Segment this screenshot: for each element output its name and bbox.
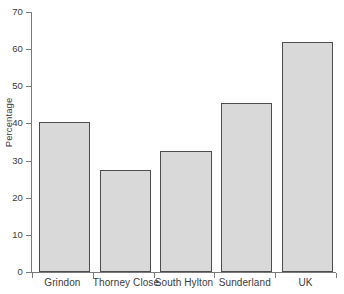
y-tick: 0 bbox=[0, 272, 31, 273]
bar bbox=[100, 170, 151, 272]
y-tick-mark bbox=[26, 49, 31, 50]
x-axis-label: Sunderland bbox=[214, 277, 275, 289]
y-tick: 50 bbox=[0, 86, 31, 87]
x-axis-line bbox=[31, 272, 336, 273]
y-tick-mark bbox=[26, 198, 31, 199]
y-tick: 30 bbox=[0, 161, 31, 162]
y-tick: 70 bbox=[0, 12, 31, 13]
y-tick-label: 10 bbox=[1, 230, 23, 240]
bar-chart: Percentage 010203040506070 GrindonThorne… bbox=[0, 0, 344, 294]
y-tick-label: 0 bbox=[1, 267, 23, 277]
y-tick-label: 40 bbox=[1, 118, 23, 128]
y-tick-label: 50 bbox=[1, 81, 23, 91]
plot-area bbox=[32, 12, 336, 272]
bar bbox=[39, 122, 90, 272]
y-tick: 10 bbox=[0, 235, 31, 236]
x-axis-label: South Hylton bbox=[154, 277, 215, 289]
y-tick-mark bbox=[26, 272, 31, 273]
y-tick-mark bbox=[26, 86, 31, 87]
y-tick: 60 bbox=[0, 49, 31, 50]
y-tick: 40 bbox=[0, 123, 31, 124]
y-tick-label: 70 bbox=[1, 7, 23, 17]
y-tick-mark bbox=[26, 235, 31, 236]
y-tick: 20 bbox=[0, 198, 31, 199]
x-tick-mark bbox=[336, 273, 337, 278]
bar bbox=[282, 42, 333, 272]
bar bbox=[160, 151, 211, 272]
x-axis-label: UK bbox=[275, 277, 336, 289]
x-axis-label: Grindon bbox=[32, 277, 93, 289]
y-tick-label: 30 bbox=[1, 156, 23, 166]
x-axis-label: Thorney Close bbox=[93, 277, 154, 289]
y-tick-label: 20 bbox=[1, 193, 23, 203]
y-tick-mark bbox=[26, 12, 31, 13]
y-tick-mark bbox=[26, 161, 31, 162]
y-tick-label: 60 bbox=[1, 44, 23, 54]
y-tick-mark bbox=[26, 123, 31, 124]
bar bbox=[221, 103, 272, 272]
